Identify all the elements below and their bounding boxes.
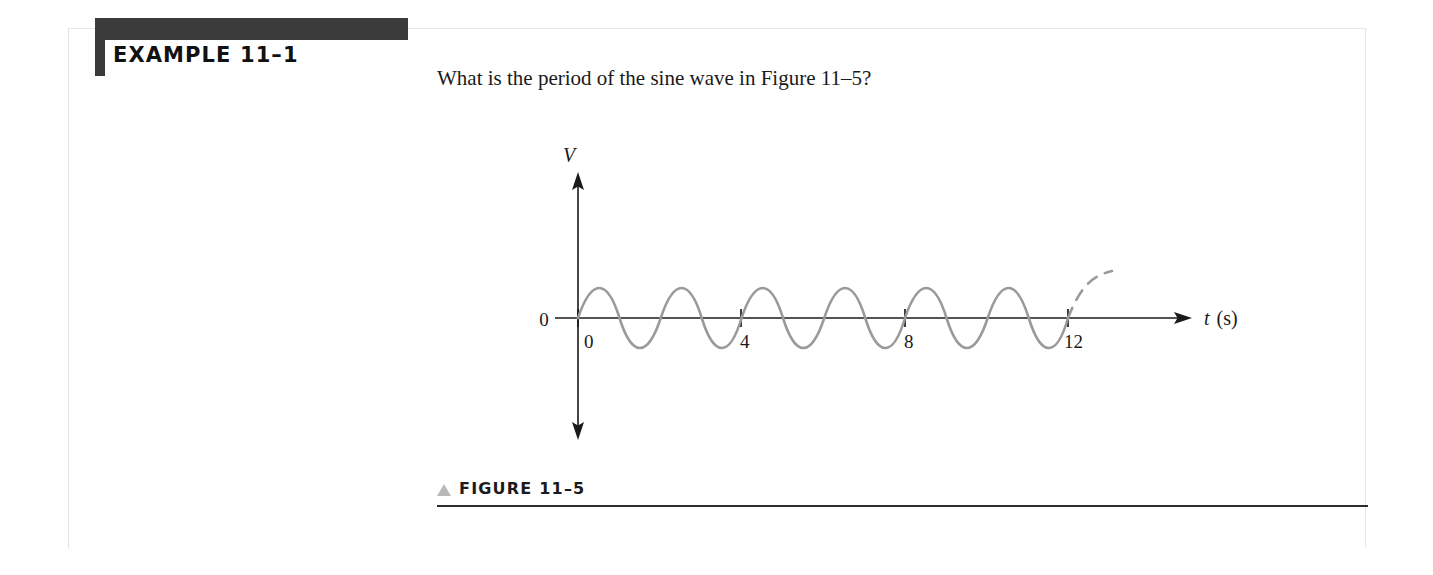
example-title: EXAMPLE 11–1 — [113, 43, 299, 67]
example-header-banner — [95, 18, 408, 40]
example-header-side-bar — [95, 40, 105, 76]
figure-caption: FIGURE 11–5 — [437, 479, 585, 498]
figure-caption-rule — [437, 505, 1368, 507]
up-triangle-icon — [437, 484, 451, 496]
page-frame — [68, 28, 1366, 548]
question-text: What is the period of the sine wave in F… — [437, 66, 871, 91]
figure-caption-label: FIGURE 11–5 — [459, 479, 585, 498]
